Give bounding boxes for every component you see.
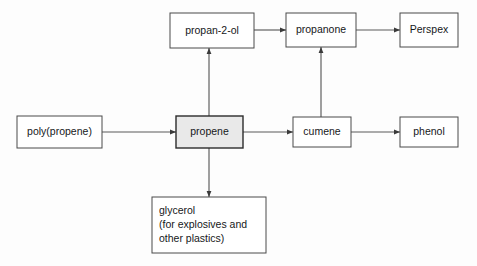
node-propanone[interactable]: propanone (286, 13, 356, 47)
perspex-label: Perspex (410, 23, 449, 35)
node-perspex[interactable]: Perspex (400, 13, 458, 47)
glycerol-label-line-3: other plastics) (159, 232, 224, 244)
reaction-pathway-diagram: propan-2-olpropanonePerspexpoly(propene)… (0, 0, 477, 266)
edge-layer (102, 30, 400, 197)
glycerol-label-line-2: (for explosives and (159, 218, 247, 230)
node-cumene[interactable]: cumene (293, 117, 351, 147)
node-poly-propene[interactable]: poly(propene) (17, 116, 102, 148)
node-propan-2-ol[interactable]: propan-2-ol (170, 13, 254, 48)
poly-propene-label: poly(propene) (27, 125, 92, 137)
propene-label: propene (190, 125, 229, 137)
cumene-label: cumene (303, 125, 341, 137)
node-glycerol[interactable]: glycerol (for explosives and other plast… (152, 197, 266, 253)
node-propene[interactable]: propene (176, 116, 243, 148)
glycerol-label-line-1: glycerol (159, 204, 195, 216)
propanone-label: propanone (296, 23, 346, 35)
phenol-label: phenol (413, 125, 445, 137)
propan-2-ol-label: propan-2-ol (185, 24, 239, 36)
node-phenol[interactable]: phenol (400, 117, 458, 147)
node-layer: propan-2-olpropanonePerspexpoly(propene)… (17, 13, 458, 148)
